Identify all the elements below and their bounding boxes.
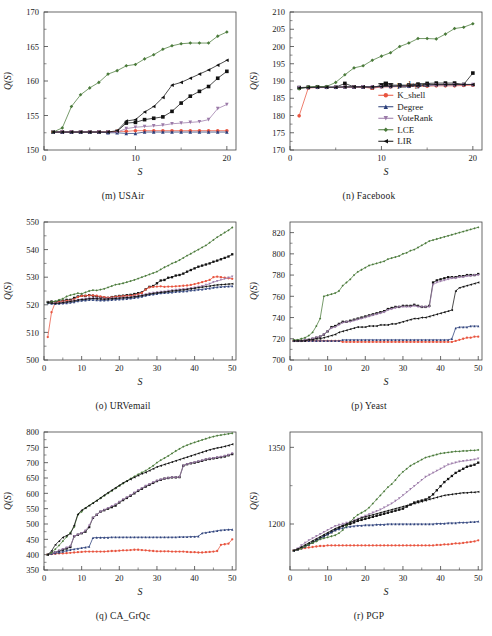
y-tick-label: 510 [26, 328, 39, 338]
data-point-circle [160, 550, 162, 552]
data-point-circle [178, 550, 180, 552]
data-point-circle [182, 285, 184, 287]
x-axis-label: S [384, 586, 389, 597]
plot-yeast: 70072074076078080082001020304050SQ(S) [246, 210, 492, 400]
data-point-circle [402, 544, 404, 546]
data-point-circle [92, 550, 94, 552]
data-point-circle [92, 294, 94, 296]
data-point-circle [205, 280, 207, 282]
data-point-circle [114, 550, 116, 552]
data-point-square [156, 282, 158, 284]
data-point-square [171, 276, 173, 278]
y-tick-label: 800 [272, 249, 285, 259]
data-point-circle [462, 338, 464, 340]
data-point-circle [421, 544, 423, 546]
data-point-circle [470, 337, 472, 339]
data-point-circle [80, 551, 82, 553]
data-point-circle [73, 551, 75, 553]
y-tick-label: 155 [26, 111, 39, 121]
y-axis-label: Q(S) [3, 72, 14, 90]
data-point-circle [190, 551, 192, 553]
y-tick-label: 170 [272, 145, 285, 155]
y-tick-label: 550 [26, 217, 39, 227]
data-point-circle [417, 544, 419, 546]
data-point-circle [368, 544, 370, 546]
data-point-circle [409, 544, 411, 546]
data-point-circle [417, 341, 419, 343]
panel-q: 3504004505005506006507007508000102030405… [0, 420, 246, 632]
data-point-circle [47, 336, 49, 338]
data-point-circle [394, 341, 396, 343]
data-point-circle [379, 341, 381, 343]
data-point-circle [99, 550, 101, 552]
legend-label: LIR [397, 136, 412, 146]
data-point-circle [398, 341, 400, 343]
data-point-circle [447, 341, 449, 343]
data-point-square [152, 116, 156, 120]
data-point-square [197, 266, 199, 268]
data-point-square [175, 274, 177, 276]
data-point-square [207, 85, 211, 89]
data-point-square [439, 278, 441, 280]
plot-usair: 15015516016517001020SQ(S) [0, 0, 246, 190]
y-tick-label: 650 [26, 473, 39, 483]
data-point-square [398, 509, 400, 511]
plot-frame [290, 432, 482, 570]
data-point-square [224, 257, 226, 259]
data-point-circle [443, 341, 445, 343]
data-point-square [451, 475, 453, 477]
data-point-circle [436, 544, 438, 546]
data-point-circle [413, 544, 415, 546]
plot-urvemail: 50051052053054055001020304050SQ(S) [0, 210, 246, 400]
data-point-circle [212, 550, 214, 552]
data-point-circle [357, 341, 359, 343]
data-point-square [402, 508, 404, 510]
x-tick-label: 10 [131, 153, 140, 163]
data-point-circle [308, 546, 310, 548]
data-point-circle [137, 549, 139, 551]
data-point-circle [178, 285, 180, 287]
plot-frame [44, 222, 236, 360]
x-tick-label: 50 [228, 573, 237, 583]
data-point-circle [357, 544, 359, 546]
data-point-square [375, 515, 377, 517]
y-tick-label: 520 [26, 300, 39, 310]
data-point-circle [394, 544, 396, 546]
x-tick-label: 10 [377, 153, 386, 163]
data-point-circle [216, 275, 218, 277]
data-point-circle [462, 542, 464, 544]
data-point-circle [103, 550, 105, 552]
data-point-square [231, 253, 233, 255]
data-point-circle [182, 550, 184, 552]
data-point-square [208, 262, 210, 264]
data-point-circle [326, 544, 328, 546]
data-point-circle [197, 551, 199, 553]
data-point-circle [88, 294, 90, 296]
data-point-circle [424, 544, 426, 546]
data-point-circle [171, 285, 173, 287]
data-point-circle [84, 295, 86, 297]
data-point-circle [383, 341, 385, 343]
x-tick-label: 0 [42, 573, 46, 583]
data-point-circle [364, 341, 366, 343]
data-point-circle [390, 544, 392, 546]
data-point-circle [473, 335, 475, 337]
legend-label: p_degree [397, 79, 430, 89]
data-point-circle [220, 544, 222, 546]
data-point-circle [133, 549, 135, 551]
y-tick-label: 820 [272, 228, 285, 238]
data-point-circle [96, 295, 98, 297]
data-point-circle [197, 282, 199, 284]
y-tick-label: 1350 [268, 443, 285, 453]
data-point-square [436, 279, 438, 281]
data-point-square [458, 470, 460, 472]
y-tick-label: 750 [26, 443, 39, 453]
data-point-square [143, 118, 147, 122]
data-point-circle [69, 552, 71, 554]
data-point-square [216, 259, 218, 261]
data-point-circle [163, 286, 165, 288]
data-point-circle [466, 337, 468, 339]
data-point-square [394, 510, 396, 512]
y-tick-label: 700 [272, 355, 285, 365]
data-point-square [439, 485, 441, 487]
